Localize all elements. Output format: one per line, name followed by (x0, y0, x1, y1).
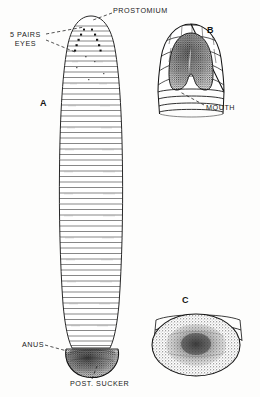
illustration-canvas: PROSTOMIUM 5 PAIRS EYES MOUTH ANUS POST.… (0, 0, 260, 397)
posterior-sucker-a (60, 345, 124, 381)
label-posterior-sucker: POST. SUCKER (70, 379, 129, 389)
label-anus: ANUS (22, 340, 44, 350)
figure-label-c: C (182, 295, 189, 305)
figure-c-sucker (150, 312, 244, 378)
leader-anus (45, 345, 67, 351)
figure-a-body (55, 12, 127, 354)
figure-label-b: B (207, 25, 214, 35)
label-five-pairs-eyes: 5 PAIRS EYES (10, 30, 41, 49)
label-eyes-line1: 5 PAIRS (10, 30, 41, 39)
label-mouth: MOUTH (206, 103, 235, 113)
figure-label-a: A (40, 98, 47, 108)
label-eyes-line2: EYES (10, 39, 41, 48)
anatomy-line-drawing (0, 0, 260, 397)
label-prostomium: PROSTOMIUM (113, 6, 168, 16)
